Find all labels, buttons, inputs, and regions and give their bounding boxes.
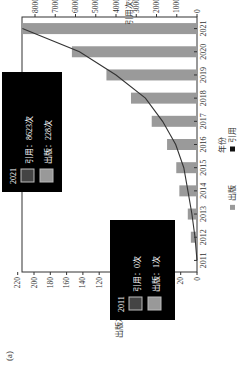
bar-2015 [176, 162, 197, 173]
tooltip-2021-pub-swatch [40, 169, 53, 182]
left-axis-label: 180 [46, 277, 55, 289]
category-label: 2017 [199, 113, 208, 129]
right-axis-label: 0 [193, 9, 202, 13]
legend-label-publications: 出版 [227, 185, 237, 201]
tooltip-2021-pub: 出版：228次 [43, 120, 53, 164]
bar-2016 [167, 139, 197, 150]
left-axis-label: 20 [176, 277, 185, 285]
right-axis-label: 1000 [172, 0, 181, 13]
legend-swatch-citations [230, 147, 235, 152]
tooltip-2011-cite-swatch [129, 297, 142, 310]
right-axis-label: 2000 [152, 0, 161, 13]
right-axis-label: 4000 [112, 0, 121, 13]
category-label: 2013 [199, 206, 208, 222]
category-label: 2011 [199, 253, 208, 269]
legend-swatch-publications [230, 205, 235, 210]
tooltip-2011-year: 2011 [117, 296, 126, 312]
right-axis-title: 引用次数/次 [124, 0, 134, 25]
category-label: 2012 [199, 229, 208, 245]
legend-label-citations: 引用 [228, 127, 237, 143]
bar-2020 [72, 46, 197, 57]
left-axis-label: 120 [95, 277, 104, 289]
category-label: 2021 [199, 21, 208, 37]
left-axis-label: 140 [78, 277, 87, 289]
right-axis-label: 8000 [31, 0, 40, 13]
left-axis-label: 220 [13, 277, 22, 289]
tooltip-2021-cite: 引用：8623次 [24, 116, 34, 164]
tooltip-2011-pub-swatch [148, 297, 161, 310]
left-axis-label: 0 [193, 277, 202, 281]
right-axis-label: 5000 [91, 0, 100, 13]
left-axis-label: 160 [62, 277, 71, 289]
category-label: 2018 [199, 90, 208, 106]
left-axis-label: 200 [30, 277, 39, 289]
category-label: 2016 [199, 137, 208, 153]
tooltip-2021-cite-swatch [21, 169, 34, 182]
category-label: 2019 [199, 67, 208, 83]
bar-2017 [152, 116, 197, 127]
bar-2021 [22, 23, 197, 34]
x-axis-title: 年份 [217, 137, 227, 153]
right-axis-label: 6000 [71, 0, 80, 13]
rotated-bar-line-chart: 2011201220132014201520162017201820192020… [0, 0, 245, 373]
chart: 2011201220132014201520162017201820192020… [0, 0, 245, 373]
category-label: 2014 [199, 183, 208, 199]
category-label: 2015 [199, 160, 208, 176]
panel-label: (a) [4, 351, 14, 361]
category-label: 2020 [199, 44, 208, 60]
right-axis-label: 7000 [51, 0, 60, 13]
tooltip-2011-pub: 出版：1次 [151, 256, 161, 292]
tooltip-2021-year: 2021 [9, 168, 18, 184]
tooltip-2011-cite: 引用：0次 [132, 256, 142, 292]
